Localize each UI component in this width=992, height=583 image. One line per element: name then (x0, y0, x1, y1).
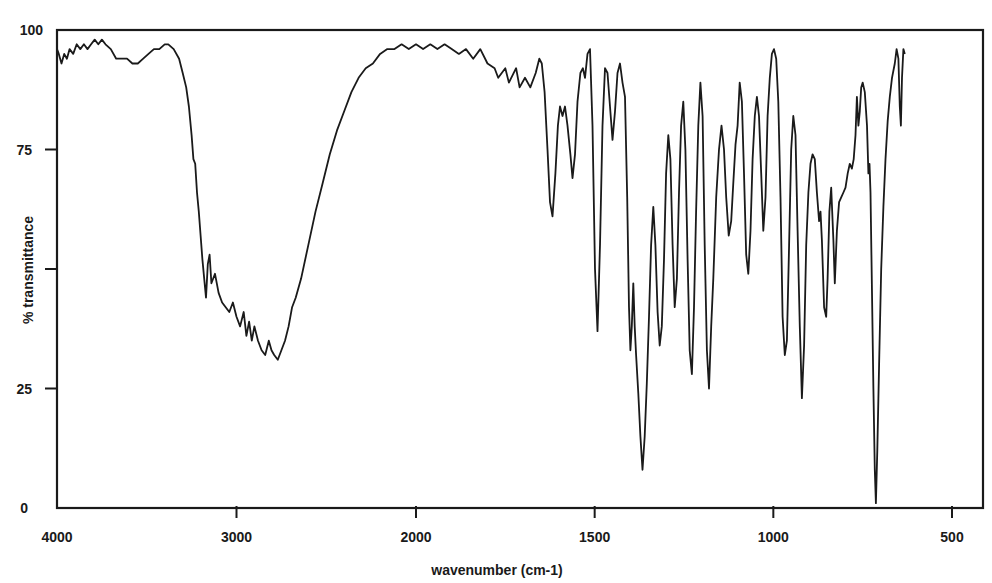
x-tick-label: 500 (940, 529, 964, 545)
y-tick-label: 100 (20, 22, 44, 38)
x-tick-label: 1000 (758, 529, 789, 545)
plot-frame (57, 30, 983, 508)
x-axis-ticks: 40003000200015001000500 (41, 506, 963, 545)
x-tick-label: 2000 (400, 529, 431, 545)
x-tick-label: 3000 (221, 529, 252, 545)
y-axis-label: % transmittance (20, 216, 36, 324)
y-tick-label: 25 (16, 381, 32, 397)
y-tick-label: 0 (20, 500, 28, 516)
x-tick-label: 1500 (579, 529, 610, 545)
ir-spectrum-chart: 02575100 40003000200015001000500 wavenum… (0, 0, 992, 583)
x-axis-label: wavenumber (cm-1) (430, 562, 562, 578)
y-tick-label: 75 (16, 142, 32, 158)
x-tick-label: 4000 (41, 529, 72, 545)
spectrum-line (57, 40, 905, 504)
